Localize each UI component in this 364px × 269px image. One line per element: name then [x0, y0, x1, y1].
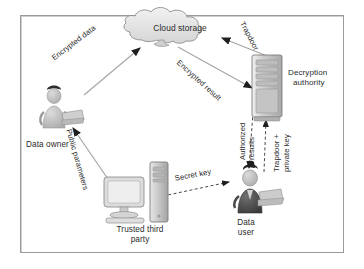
- edge-owner-to-cloud: [84, 48, 140, 95]
- diagram-canvas: Cloud storage Decryption authority Data …: [0, 0, 364, 269]
- edge-label-trapdoor-private-key: Trapdoor + private key: [272, 110, 291, 172]
- trusted-third-party-label-line1: Trusted third: [95, 225, 185, 235]
- decryption-authority-label-line1: Decryption: [288, 68, 344, 78]
- person-with-laptop-icon-owner: [40, 86, 84, 129]
- data-user-label: Data user: [225, 218, 267, 238]
- cloud-storage-label: Cloud storage: [145, 24, 215, 33]
- data-user-label-line1: Data: [225, 218, 267, 228]
- trusted-third-party-label: Trusted third party: [95, 225, 185, 245]
- decryption-authority-label-line2: authority: [288, 78, 344, 88]
- data-user-label-line2: user: [225, 228, 267, 238]
- trusted-third-party-label-line2: party: [95, 235, 185, 245]
- decryption-authority-label: Decryption authority: [288, 68, 344, 87]
- edge-user-to-authority: [264, 120, 266, 172]
- edge-label-authorized-results: Authorized results: [238, 110, 256, 160]
- edge-ttp-to-user: [163, 182, 229, 196]
- desktop-computer-icon: [104, 162, 168, 223]
